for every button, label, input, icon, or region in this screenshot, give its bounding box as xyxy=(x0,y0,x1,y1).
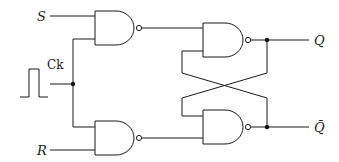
label-s: S xyxy=(37,9,46,24)
nand-gate-latch-bottom xyxy=(203,110,251,144)
label-q-bar: Q̄ xyxy=(314,120,325,135)
nand-gate-latch-top xyxy=(203,23,251,57)
label-r: R xyxy=(36,143,47,158)
wire-ck-distribution xyxy=(73,39,95,127)
nand-gate-steering-bottom xyxy=(95,121,142,155)
label-ck: Ck xyxy=(47,58,64,72)
label-q: Q xyxy=(314,33,325,48)
sr-flip-flop-diagram: S R Ck Q Q̄ xyxy=(0,0,339,162)
clock-pulse-icon xyxy=(20,69,48,97)
nand-gate-steering-top xyxy=(95,11,142,45)
